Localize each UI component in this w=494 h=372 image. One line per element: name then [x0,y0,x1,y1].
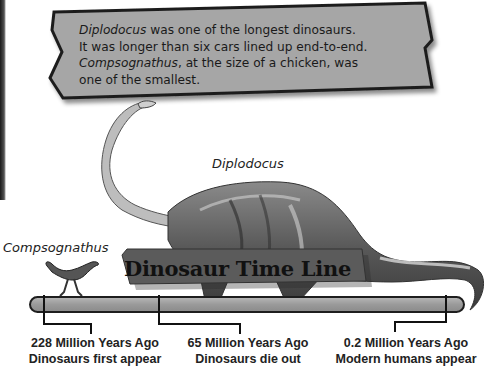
timeline-event-3: 0.2 Million Years Ago Modern humans appe… [322,336,490,367]
time-bar [30,297,464,312]
event-1-what: Dinosaurs first appear [16,352,174,368]
label-diplodocus: Diplodocus [212,156,284,171]
event-2-when: 65 Million Years Ago [176,336,320,352]
event-3-when: 0.2 Million Years Ago [322,336,490,352]
event-3-what: Modern humans appear [322,352,490,368]
timeline-title: Dinosaur Time Line [124,256,374,281]
compsognathus-illustration [46,262,99,296]
event-2-what: Dinosaurs die out [176,352,320,368]
event-1-when: 228 Million Years Ago [16,336,174,352]
timeline-event-2: 65 Million Years Ago Dinosaurs die out [176,336,320,367]
label-compsognathus: Compsognathus [3,240,108,255]
timeline-artwork [0,0,494,372]
timeline-event-1: 228 Million Years Ago Dinosaurs first ap… [16,336,174,367]
